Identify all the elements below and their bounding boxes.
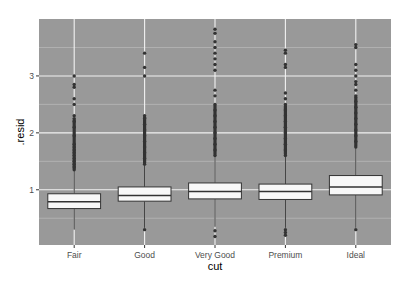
outlier-point xyxy=(143,140,146,143)
outlier-point xyxy=(73,74,76,77)
outlier-point xyxy=(73,83,76,86)
outlier-point xyxy=(284,143,287,146)
outlier-point xyxy=(213,125,216,128)
x-axis-title: cut xyxy=(208,260,223,272)
outlier-point xyxy=(143,123,146,126)
outlier-point xyxy=(143,134,146,137)
outlier-point xyxy=(213,88,216,91)
x-tick-label: Very Good xyxy=(195,250,235,260)
outlier-point xyxy=(213,114,216,117)
x-axis: FairGoodVery GoodPremiumIdeal xyxy=(67,245,365,260)
outlier-point xyxy=(143,128,146,131)
outlier-point xyxy=(143,51,146,54)
outlier-point xyxy=(284,137,287,140)
outlier-point xyxy=(284,108,287,111)
outlier-point xyxy=(143,114,146,117)
outlier-point xyxy=(143,74,146,77)
outlier-point xyxy=(213,131,216,134)
outlier-point xyxy=(143,145,146,148)
outlier-point xyxy=(143,228,146,231)
y-axis: 123 xyxy=(29,71,39,195)
outlier-point xyxy=(354,128,357,131)
outlier-point xyxy=(73,97,76,100)
outlier-point xyxy=(354,228,357,231)
boxplot-chart: 123 FairGoodVery GoodPremiumIdeal cut .r… xyxy=(0,0,407,286)
x-tick-label: Good xyxy=(134,250,155,260)
outlier-point xyxy=(213,143,216,146)
outlier-point xyxy=(73,134,76,137)
outlier-point xyxy=(213,103,216,106)
outlier-point xyxy=(354,88,357,91)
outlier-point xyxy=(213,154,216,157)
x-tick-label: Fair xyxy=(67,250,82,260)
outlier-point xyxy=(213,32,216,35)
box-iqr xyxy=(118,187,171,201)
outlier-point xyxy=(354,69,357,72)
outlier-point xyxy=(213,46,216,49)
outlier-cluster xyxy=(213,104,216,155)
y-tick-label: 3 xyxy=(29,71,34,81)
outlier-point xyxy=(213,94,216,97)
outlier-point xyxy=(284,114,287,117)
y-tick-label: 1 xyxy=(29,185,34,195)
outlier-point xyxy=(354,134,357,137)
outlier-cluster xyxy=(354,96,357,147)
outlier-point xyxy=(73,114,76,117)
outlier-point xyxy=(354,111,357,114)
outlier-point xyxy=(213,235,216,238)
outlier-point xyxy=(73,103,76,106)
outlier-point xyxy=(213,63,216,66)
outlier-point xyxy=(354,123,357,126)
outlier-point xyxy=(213,57,216,60)
outlier-point xyxy=(284,120,287,123)
y-axis-title: .resid xyxy=(14,119,26,146)
outlier-point xyxy=(213,40,216,43)
outlier-point xyxy=(354,74,357,77)
outlier-point xyxy=(213,69,216,72)
outlier-point xyxy=(354,63,357,66)
outlier-point xyxy=(284,131,287,134)
outlier-point xyxy=(354,106,357,109)
x-tick-label: Premium xyxy=(268,250,302,260)
outlier-point xyxy=(284,154,287,157)
outlier-point xyxy=(284,49,287,52)
outlier-point xyxy=(213,120,216,123)
box-iqr xyxy=(329,176,382,195)
outlier-point xyxy=(354,94,357,97)
outlier-point xyxy=(354,140,357,143)
outlier-point xyxy=(73,125,76,128)
outlier-point xyxy=(213,108,216,111)
outlier-point xyxy=(354,117,357,120)
outlier-point xyxy=(284,97,287,100)
outlier-point xyxy=(213,229,216,232)
outlier-point xyxy=(354,145,357,148)
outlier-point xyxy=(354,43,357,46)
outlier-point xyxy=(284,103,287,106)
outlier-point xyxy=(73,143,76,146)
outlier-point xyxy=(284,91,287,94)
outlier-point xyxy=(284,63,287,66)
outlier-point xyxy=(213,51,216,54)
outlier-point xyxy=(213,28,216,31)
outlier-point xyxy=(143,66,146,69)
outlier-point xyxy=(143,157,146,160)
outlier-point xyxy=(354,80,357,83)
outlier-point xyxy=(213,148,216,151)
outlier-point xyxy=(284,148,287,151)
outlier-point xyxy=(284,125,287,128)
y-tick-label: 2 xyxy=(29,128,34,138)
outlier-point xyxy=(213,137,216,140)
outlier-point xyxy=(143,162,146,165)
outlier-point xyxy=(354,100,357,103)
outlier-point xyxy=(284,234,287,237)
outlier-cluster xyxy=(284,104,287,155)
x-tick-label: Ideal xyxy=(347,250,366,260)
outlier-point xyxy=(143,151,146,154)
